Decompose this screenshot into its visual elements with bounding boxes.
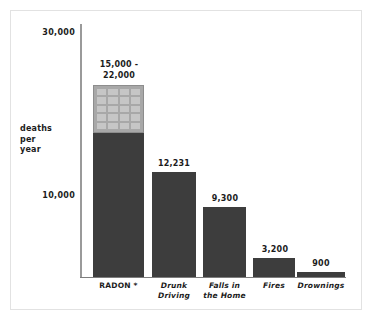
y-axis-title-line-3: year [20, 145, 75, 156]
bar-radon-range-block [93, 85, 144, 133]
value-label-fires-line-1: 3,200 [241, 245, 309, 256]
grid-cell [131, 97, 140, 103]
bar-drownings[interactable] [297, 272, 345, 277]
value-label-falls-line-1: 9,300 [191, 194, 259, 205]
grid-cell [97, 89, 106, 95]
value-label-fires: 3,200 [241, 245, 309, 256]
y-axis-title: deaths per year [20, 124, 75, 156]
grid-cell [97, 123, 106, 129]
value-label-drunk-driving-line-1: 12,231 [140, 159, 208, 170]
value-label-radon: 15,000 - 22,000 [80, 60, 158, 81]
y-tick-label-10000: 10,000 [20, 191, 75, 200]
value-label-drownings-line-1: 900 [287, 259, 355, 270]
y-axis-title-line-1: deaths [20, 124, 75, 135]
grid-cell [120, 106, 129, 112]
y-axis-title-line-2: per [20, 135, 75, 146]
x-axis-line [80, 277, 346, 278]
value-label-drownings: 900 [287, 259, 355, 270]
grid-cell [131, 89, 140, 95]
grid-cell [108, 97, 117, 103]
grid-cell [120, 89, 129, 95]
category-label-drownings: Drownings [286, 281, 356, 291]
grid-cell [108, 114, 117, 120]
grid-cell [131, 114, 140, 120]
y-tick-label-30000: 30,000 [20, 28, 75, 37]
value-label-drunk-driving: 12,231 [140, 159, 208, 170]
grid-cell [120, 123, 129, 129]
value-label-falls: 9,300 [191, 194, 259, 205]
bar-chart-plot-area: 30,000 10,000 deaths per year 15,000 - 2… [0, 0, 375, 322]
grid-cell [120, 97, 129, 103]
grid-cell [131, 123, 140, 129]
grid-cell [97, 114, 106, 120]
bar-radon[interactable] [93, 85, 144, 277]
value-label-radon-line-2: 22,000 [80, 71, 158, 82]
grid-cell [108, 106, 117, 112]
bar-falls-in-the-home[interactable] [203, 207, 246, 277]
grid-cell [131, 106, 140, 112]
category-label-falls-line-2: the Home [189, 291, 260, 301]
grid-cell [108, 89, 117, 95]
category-label-drownings-line-1: Drownings [286, 281, 356, 291]
grid-cell [97, 106, 106, 112]
value-label-radon-line-1: 15,000 - [80, 60, 158, 71]
bar-drunk-driving[interactable] [152, 172, 196, 277]
chart-screenshot: 30,000 10,000 deaths per year 15,000 - 2… [0, 0, 375, 322]
grid-cell [120, 114, 129, 120]
grid-cell [108, 123, 117, 129]
grid-cell [97, 97, 106, 103]
